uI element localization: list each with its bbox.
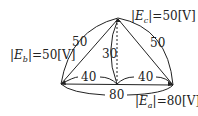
length-height: 30: [102, 48, 117, 60]
label-ea: |Ea|=80[V]: [135, 95, 198, 112]
length-base: 80: [109, 89, 124, 101]
dim-arc-rh1: [117, 77, 134, 84]
vertex-c-dot: [115, 19, 121, 22]
phasor-triangle-diagram: |Ec|=50[V] |Eb|=50[V] |Ea|=80[V] 50 50 3…: [0, 0, 198, 116]
label-ec: |Ec|=50[V]: [131, 10, 196, 27]
length-left-side: 50: [72, 36, 87, 48]
length-right-half: 40: [138, 71, 153, 83]
edge-b-a: [61, 84, 173, 85]
label-eb: |Eb|=50[V]: [10, 49, 75, 66]
length-left-half: 40: [81, 71, 96, 83]
dim-arc-base1: [61, 84, 105, 95]
length-right-side: 50: [150, 37, 165, 49]
